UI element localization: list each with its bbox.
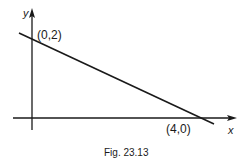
diagram-canvas (0, 0, 247, 159)
y-axis-label: y (23, 8, 29, 19)
point-label-x-intercept: (4,0) (166, 123, 191, 135)
point-label-y-intercept: (0,2) (37, 29, 62, 41)
x-axis-label: x (228, 125, 234, 136)
figure-caption: Fig. 23.13 (104, 148, 148, 158)
graph-line (19, 33, 214, 124)
